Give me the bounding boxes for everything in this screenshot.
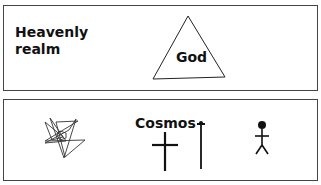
triangle-icon	[153, 16, 225, 79]
inverted-pentagram-icon	[45, 118, 85, 158]
stick-figure-icon	[255, 121, 269, 154]
god-label: God	[176, 49, 207, 66]
cosmos-label: Cosmos	[135, 115, 196, 132]
heavenly-realm-label: Heavenly realm	[15, 24, 115, 58]
cross-icon	[152, 132, 178, 171]
nail-icon	[197, 121, 205, 169]
